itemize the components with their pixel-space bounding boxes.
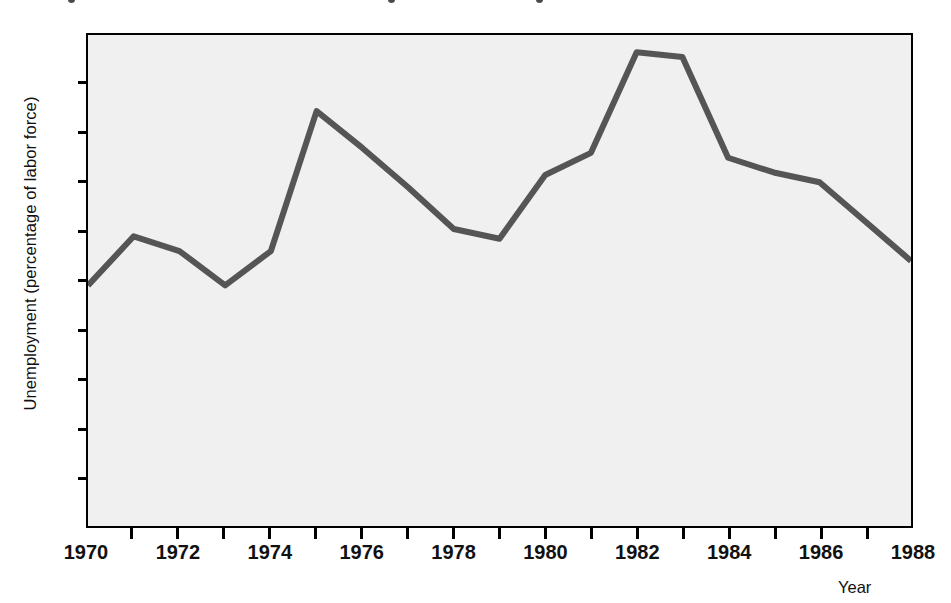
data-line-svg [88, 35, 911, 526]
plot-area [86, 33, 913, 528]
x-tick-label-1974: 1974 [225, 541, 315, 564]
x-tick-mark-1986 [820, 528, 823, 539]
x-tick-mark-1980 [544, 528, 547, 539]
x-tick-label-1976: 1976 [317, 541, 407, 564]
x-tick-label-1972: 1972 [133, 541, 223, 564]
x-axis-title: Year [838, 578, 871, 597]
x-tick-mark-1976 [360, 528, 363, 539]
x-tick-mark-1978 [452, 528, 455, 539]
x-tick-mark-1974 [268, 528, 271, 539]
x-tick-label-1978: 1978 [409, 541, 499, 564]
x-tick-label-1986: 1986 [776, 541, 866, 564]
x-tick-label-1970: 1970 [41, 541, 131, 564]
x-tick-label-1988: 1988 [868, 541, 951, 564]
x-tick-mark-1979 [498, 528, 501, 539]
x-tick-mark-1975 [314, 528, 317, 539]
x-tick-mark-1985 [774, 528, 777, 539]
x-tick-mark-1977 [406, 528, 409, 539]
x-tick-mark-1981 [590, 528, 593, 539]
x-tick-mark-1972 [176, 528, 179, 539]
unemployment-line-chart: Unemployment (percentage of labor force)… [0, 0, 951, 603]
unemployment-series-line [88, 52, 911, 285]
x-tick-label-1982: 1982 [592, 541, 682, 564]
x-tick-mark-1971 [130, 528, 133, 539]
x-tick-mark-1983 [682, 528, 685, 539]
y-axis-title: Unemployment (percentage of labor force) [21, 0, 40, 514]
x-tick-mark-1987 [866, 528, 869, 539]
x-tick-label-1984: 1984 [684, 541, 774, 564]
x-tick-mark-1984 [728, 528, 731, 539]
x-tick-mark-1973 [222, 528, 225, 539]
x-tick-mark-1982 [636, 528, 639, 539]
x-tick-label-1980: 1980 [500, 541, 590, 564]
